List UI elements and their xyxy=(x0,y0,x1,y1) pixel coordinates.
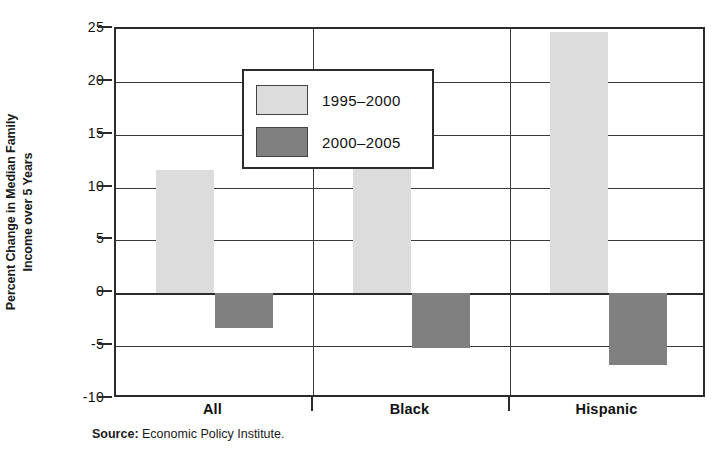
bar-all-1995-2000 xyxy=(156,170,214,294)
y-tick-mark xyxy=(98,185,112,187)
x-category-label-hispanic: Hispanic xyxy=(508,401,705,417)
y-axis-title-line-1: Percent Change in Median Family xyxy=(3,114,20,310)
y-tick-mark xyxy=(98,290,112,292)
y-tick-mark xyxy=(98,396,112,398)
y-axis-title: Percent Change in Median Family Income o… xyxy=(0,27,40,397)
y-axis-tick-labels: 2520151050-5-10 xyxy=(52,0,104,461)
x-axis-tick-mark xyxy=(311,397,313,411)
plot-area: 1995–2000 2000–2005 xyxy=(114,27,705,397)
category-separator xyxy=(510,29,511,395)
x-axis-tick-mark xyxy=(508,397,510,411)
legend-label-1995-2000: 1995–2000 xyxy=(322,92,401,109)
y-tick-mark xyxy=(98,237,112,239)
source-note: Source: Economic Policy Institute. xyxy=(92,427,284,441)
y-tick-mark xyxy=(98,132,112,134)
bar-hispanic-2000-2005 xyxy=(609,293,667,365)
bar-all-2000-2005 xyxy=(215,293,273,328)
y-axis-title-line-2: Income over 5 Years xyxy=(20,114,37,310)
legend-label-2000-2005: 2000–2005 xyxy=(322,134,401,151)
x-category-label-all: All xyxy=(114,401,311,417)
y-tick-mark xyxy=(98,343,112,345)
x-category-label-black: Black xyxy=(311,401,508,417)
y-tick-mark xyxy=(98,79,112,81)
legend-swatch-1995-2000 xyxy=(256,85,308,115)
bar-black-2000-2005 xyxy=(412,293,470,348)
bar-hispanic-1995-2000 xyxy=(550,32,608,293)
legend-item-1995-2000: 1995–2000 xyxy=(256,83,401,117)
legend: 1995–2000 2000–2005 xyxy=(242,69,434,169)
y-tick-mark xyxy=(98,26,112,28)
legend-item-2000-2005: 2000–2005 xyxy=(256,125,401,159)
source-value: Economic Policy Institute. xyxy=(142,427,284,441)
source-label: Source: xyxy=(92,427,139,441)
legend-swatch-2000-2005 xyxy=(256,127,308,157)
chart-page: Percent Change in Median Family Income o… xyxy=(0,0,724,461)
